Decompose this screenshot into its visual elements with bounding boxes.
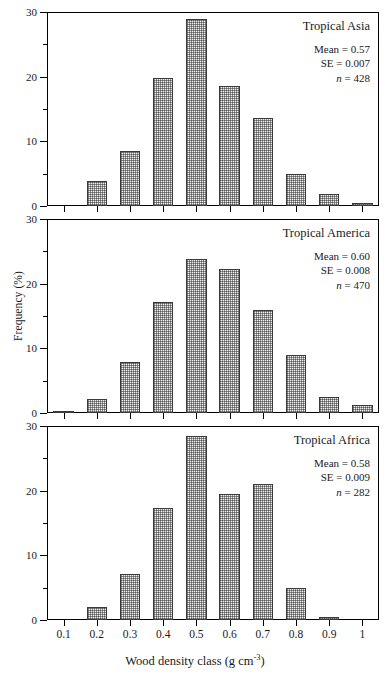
- x-axis-tick: [64, 620, 65, 626]
- histogram-bar: [219, 494, 240, 620]
- panel-tropical-asia: 0102030 Tropical Asia Mean = 0.57 SE = 0…: [47, 12, 379, 206]
- panel-region-title: Tropical America: [283, 225, 370, 242]
- histogram-bar: [253, 310, 274, 413]
- x-axis-tick-label: 1: [342, 628, 382, 640]
- x-axis-tick: [163, 206, 164, 212]
- y-axis-tick-label: 0: [32, 406, 38, 420]
- histogram-bar: [153, 78, 174, 206]
- y-axis-tick-label: 30: [26, 419, 37, 433]
- x-axis-tick: [362, 413, 363, 419]
- histogram-bar: [87, 607, 108, 620]
- histogram-bar: [286, 355, 307, 413]
- y-axis-label-text: Frequency (%): [12, 271, 24, 341]
- panel-tropical-africa: 0102030 Tropical Africa Mean = 0.58 SE =…: [47, 426, 379, 620]
- histogram-bar: [186, 436, 207, 620]
- histogram-bar: [120, 362, 141, 413]
- panel-n-value: = 470: [342, 279, 370, 291]
- y-axis-tick-label: 0: [32, 199, 38, 213]
- y-axis-minor-tick: [43, 381, 47, 382]
- histogram-bar: [219, 86, 240, 206]
- panel-se: SE = 0.008: [283, 263, 370, 278]
- panel-annotation: Tropical Africa Mean = 0.58 SE = 0.009 n…: [294, 432, 370, 499]
- panel-mean: Mean = 0.57: [303, 42, 370, 57]
- y-axis-minor-tick: [43, 523, 47, 524]
- y-axis-tick: 10: [40, 555, 47, 556]
- x-axis-title-tail: ): [261, 654, 265, 668]
- y-axis-tick: 0: [40, 413, 47, 414]
- x-axis-tick: [230, 206, 231, 212]
- panel-region-title: Tropical Asia: [303, 18, 370, 35]
- x-axis-tick: [329, 413, 330, 419]
- x-axis-tick: [296, 206, 297, 212]
- x-axis-tick: [130, 206, 131, 212]
- x-axis-title-superscript: -3: [253, 652, 260, 662]
- y-axis-tick: 20: [40, 491, 47, 492]
- y-axis-tick: 30: [40, 219, 47, 220]
- x-axis-tick: [263, 206, 264, 212]
- y-axis-minor-tick: [43, 44, 47, 45]
- x-axis-tick: [163, 413, 164, 419]
- y-axis-minor-tick: [43, 251, 47, 252]
- histogram-bar: [286, 174, 307, 206]
- histogram-bar: [153, 302, 174, 413]
- x-axis-tick: [329, 206, 330, 212]
- x-axis-tick: [97, 413, 98, 419]
- y-axis-tick-label: 20: [26, 70, 37, 84]
- y-axis-minor-tick: [43, 109, 47, 110]
- panel-mean: Mean = 0.60: [283, 249, 370, 264]
- y-axis-label: Frequency (%): [12, 236, 24, 376]
- x-axis-tick: [263, 413, 264, 419]
- x-axis-tick: [230, 413, 231, 419]
- x-axis-tick: [263, 620, 264, 626]
- histogram-bar: [352, 405, 373, 413]
- panel-mean: Mean = 0.58: [294, 456, 370, 471]
- y-axis-tick: 20: [40, 77, 47, 78]
- panel-n: n = 282: [294, 485, 370, 500]
- histogram-bar: [253, 484, 274, 620]
- panel-se: SE = 0.009: [294, 470, 370, 485]
- histogram-bar: [120, 574, 141, 620]
- y-axis-tick-label: 20: [26, 277, 37, 291]
- histogram-bar: [186, 19, 207, 206]
- y-axis-tick: 0: [40, 206, 47, 207]
- panel-n: n = 428: [303, 71, 370, 86]
- histogram-bar: [87, 181, 108, 206]
- x-axis-tick: [130, 413, 131, 419]
- y-axis-tick-label: 30: [26, 5, 37, 19]
- x-axis-tick: [296, 413, 297, 419]
- histogram-bar: [253, 118, 274, 206]
- histogram-bar: [219, 269, 240, 413]
- histogram-bar: [319, 194, 340, 206]
- histogram-bar: [120, 151, 141, 206]
- panel-annotation: Tropical Asia Mean = 0.57 SE = 0.007 n =…: [303, 18, 370, 85]
- panel-se: SE = 0.007: [303, 56, 370, 71]
- x-axis-tick: [362, 206, 363, 212]
- x-axis-tick: [196, 206, 197, 212]
- x-axis-tick: [64, 206, 65, 212]
- y-axis-tick-label: 20: [26, 484, 37, 498]
- y-axis-minor-tick: [43, 458, 47, 459]
- panel-n-value: = 428: [342, 72, 370, 84]
- panel-tropical-america: 0102030 Tropical America Mean = 0.60 SE …: [47, 219, 379, 413]
- histogram-bar: [153, 508, 174, 620]
- x-axis-tick: [296, 620, 297, 626]
- x-axis-tick: [196, 413, 197, 419]
- histogram-bar: [286, 588, 307, 620]
- x-axis-title: Wood density class (g cm-3): [0, 652, 390, 669]
- y-axis-tick: 30: [40, 426, 47, 427]
- panel-annotation: Tropical America Mean = 0.60 SE = 0.008 …: [283, 225, 370, 292]
- y-axis-tick-label: 10: [26, 548, 37, 562]
- y-axis-minor-tick: [43, 174, 47, 175]
- y-axis-tick: 0: [40, 620, 47, 621]
- x-axis-tick: [97, 206, 98, 212]
- x-axis-tick: [362, 620, 363, 626]
- x-axis-tick: [64, 413, 65, 419]
- panel-n-value: = 282: [342, 486, 370, 498]
- y-axis-tick: 30: [40, 12, 47, 13]
- x-axis-tick: [230, 620, 231, 626]
- panel-n: n = 470: [283, 278, 370, 293]
- x-axis-tick: [97, 620, 98, 626]
- histogram-bar: [87, 399, 108, 413]
- x-axis-tick: [196, 620, 197, 626]
- x-axis-tick: [163, 620, 164, 626]
